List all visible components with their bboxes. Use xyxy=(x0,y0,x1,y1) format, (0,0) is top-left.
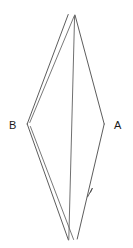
edge-top-right-to-a xyxy=(75,15,104,124)
edge-center-axis xyxy=(69,16,75,240)
edge-top-left-to-b-outer xyxy=(27,15,68,125)
edge-a-to-bottom-right xyxy=(77,124,104,239)
edge-top-right-to-b-inner xyxy=(30,16,74,123)
line-figure: B A xyxy=(0,0,133,248)
vertex-label-b: B xyxy=(9,119,16,131)
edge-b-to-bottom-right-inner xyxy=(30,127,73,240)
vertex-label-a: A xyxy=(114,119,122,131)
figure-canvas: B A xyxy=(0,0,133,248)
edge-b-to-bottom-left-outer xyxy=(27,124,68,240)
